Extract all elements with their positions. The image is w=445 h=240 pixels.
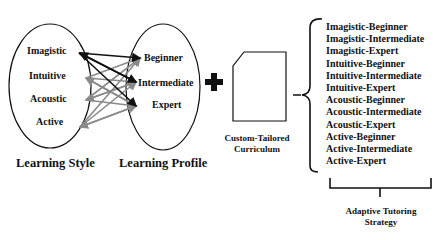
curriculum-line1: Custom-Tailored <box>207 133 307 144</box>
profile-intermediate: Intermediate <box>138 77 194 88</box>
curriculum-label: Custom-Tailored Curriculum <box>207 133 307 155</box>
adaptive-tutoring-title: Adaptive Tutoring Strategy <box>331 206 431 228</box>
profile-expert: Expert <box>152 99 181 110</box>
adaptive-tutoring-line1: Adaptive Tutoring <box>331 206 431 217</box>
style-active: Active <box>36 116 63 127</box>
style-intuitive: Intuitive <box>29 70 66 81</box>
strategy-item: Active-Beginner <box>326 131 424 143</box>
strategy-item: Acoustic-Expert <box>326 119 424 131</box>
learning-style-ellipse <box>9 24 91 148</box>
bottom-brace <box>330 178 431 197</box>
strategy-item: Intuitive-Intermediate <box>326 70 424 82</box>
document-icon <box>233 52 286 121</box>
style-acoustic: Acoustic <box>30 93 67 104</box>
strategy-item: Imagistic-Expert <box>326 45 424 57</box>
adaptive-tutoring-line2: Strategy <box>331 217 431 228</box>
diagram-canvas: Imagistic Intuitive Acoustic Active Begi… <box>0 0 445 240</box>
strategy-item: Imagistic-Intermediate <box>326 33 424 45</box>
profile-beginner: Beginner <box>144 52 183 63</box>
strategy-item: Acoustic-Intermediate <box>326 106 424 118</box>
style-imagistic: Imagistic <box>27 45 66 56</box>
learning-profile-title: Learning Profile <box>119 156 207 171</box>
curriculum-line2: Curriculum <box>207 144 307 155</box>
strategy-item: Intuitive-Expert <box>326 82 424 94</box>
strategy-item: Acoustic-Beginner <box>326 94 424 106</box>
learning-style-title: Learning Style <box>16 156 95 171</box>
plus-icon <box>205 73 223 91</box>
strategy-item: Imagistic-Beginner <box>326 21 424 33</box>
strategy-item: Active-Expert <box>326 155 424 167</box>
strategy-list: Imagistic-Beginner Imagistic-Intermediat… <box>326 21 424 167</box>
strategy-item: Intuitive-Beginner <box>326 58 424 70</box>
strategy-item: Active-Intermediate <box>326 143 424 155</box>
